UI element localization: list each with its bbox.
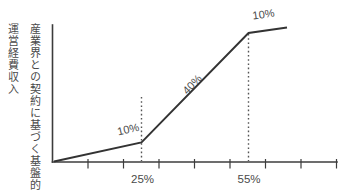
dashed-guide-lines	[142, 34, 249, 161]
x-axis-tick-labels: 25%55%	[131, 173, 261, 185]
slope-label: 10%	[116, 121, 140, 138]
slope-label: 40%	[180, 72, 204, 96]
revenue-line-series	[54, 28, 287, 162]
segment-slope-labels: 10%40%10%	[116, 7, 275, 138]
chart-canvas: 10%40%10% 25%55%	[0, 0, 344, 193]
x-tick-label: 25%	[131, 173, 154, 185]
chart-figure: 産業界との契約に基づく基盤的 運営経費収入 10%40%10% 25%55%	[0, 0, 344, 193]
x-tick-label: 55%	[237, 173, 260, 185]
slope-label: 10%	[252, 7, 276, 22]
x-axis-ticks	[88, 159, 337, 169]
